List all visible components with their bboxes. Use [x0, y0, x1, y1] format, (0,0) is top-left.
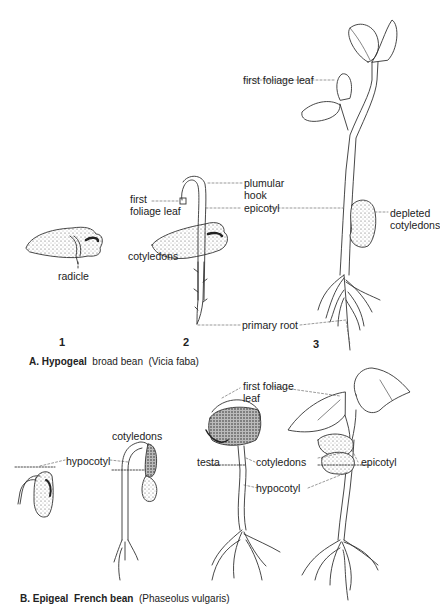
caption-section-b: B. Epigeal French bean (Phaseolus vulgar…: [20, 593, 230, 604]
label-depleted-a: depleted: [390, 207, 430, 219]
label-plumular-hook-a: plumular: [244, 177, 284, 189]
broad-bean-stage-1: [26, 227, 102, 264]
label-first-foliage-leaf-2b: foliage leaf: [130, 205, 181, 217]
label-first-foliage-leaf-b-b: leaf: [243, 392, 260, 404]
caption-a-prefix: A. Hypogeal: [29, 356, 87, 367]
french-bean-stage-1: [15, 467, 55, 517]
french-bean-stage-2: [112, 442, 157, 580]
stage-number-3: 3: [313, 338, 319, 350]
label-epicotyl-b: epicotyl: [361, 456, 397, 468]
caption-a-latin: (Vicia faba): [149, 356, 199, 367]
caption-section-a: A. Hypogeal broad bean (Vicia faba): [29, 356, 199, 367]
label-cotyledons-a: cotyledons: [128, 250, 178, 262]
label-epicotyl-a: epicotyl: [244, 202, 280, 214]
label-first-foliage-leaf-b-a: first foliage: [243, 380, 294, 392]
label-hypocotyl-b2: hypocotyl: [256, 482, 300, 494]
label-testa: testa: [197, 456, 220, 468]
label-hypocotyl-b1: hypocotyl: [66, 455, 110, 467]
caption-b-name: French bean: [74, 593, 133, 604]
label-radicle: radicle: [58, 270, 89, 282]
label-cotyledons-b1: cotyledons: [112, 430, 162, 442]
label-plumular-hook-b: hook: [244, 189, 267, 201]
broad-bean-stage-3: [302, 20, 397, 350]
stage-number-2: 2: [183, 336, 189, 348]
caption-b-latin: (Phaseolus vulgaris): [139, 593, 230, 604]
caption-b-prefix: B. Epigeal: [20, 593, 68, 604]
label-primary-root: primary root: [242, 319, 298, 331]
label-cotyledons-b2: cotyledons: [256, 456, 306, 468]
stage-number-1: 1: [59, 336, 65, 348]
label-depleted-b: cotyledons: [390, 219, 440, 231]
label-first-foliage-leaf-2a: first: [130, 193, 147, 205]
label-first-foliage-leaf-3: first foliage leaf: [243, 74, 314, 86]
french-bean-stage-4: [288, 368, 410, 600]
caption-a-name: broad bean: [92, 356, 143, 367]
